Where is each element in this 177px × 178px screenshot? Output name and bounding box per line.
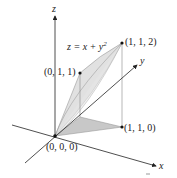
x-axis-label: x: [158, 160, 164, 171]
y-axis-label: y: [139, 55, 145, 66]
label-origin: (0, 0, 0): [46, 141, 78, 153]
label-011: (0, 1, 1): [44, 66, 76, 78]
point-112: [120, 41, 123, 44]
surface-diagram: z y x z = x + y2 (0, 1, 1) (1, 1, 2) (1,…: [0, 0, 177, 178]
z-axis-label: z: [51, 3, 56, 14]
equation-exponent: 2: [103, 40, 107, 48]
point-origin: [53, 134, 57, 138]
label-112: (1, 1, 2): [125, 36, 157, 48]
equation-base: z = x + y: [66, 41, 104, 52]
diagram-svg: z y x z = x + y2 (0, 1, 1) (1, 1, 2) (1,…: [0, 0, 177, 178]
point-011: [78, 71, 81, 74]
surface-equation: z = x + y2: [66, 40, 107, 52]
label-110: (1, 1, 0): [124, 122, 156, 134]
